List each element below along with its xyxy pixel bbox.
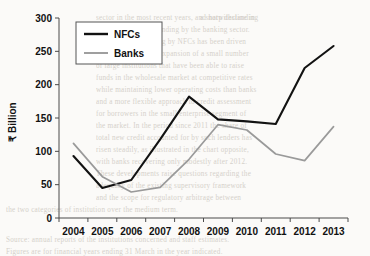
x-tick-label: 2011 [265,226,287,237]
y-tick-label: 50 [41,179,53,190]
x-axis-tick-labels: 2004200520062007200820092010201120122013 [62,226,345,237]
y-axis-ticks [55,18,59,218]
y-tick-label: 300 [35,13,52,24]
y-axis-tick-labels: 050100150200250300 [35,13,52,224]
series-line-banks [73,125,333,192]
x-tick-label: 2009 [207,226,230,237]
legend-label-nfcs: NFCs [114,29,141,40]
series-line-nfcs [73,46,333,188]
chart-legend: NFCsBanks [76,22,162,64]
y-tick-label: 0 [46,213,52,224]
x-tick-label: 2013 [322,226,345,237]
series-lines [73,46,333,192]
legend-label-banks: Banks [114,48,144,59]
x-tick-label: 2006 [120,226,143,237]
x-tick-label: 2010 [236,226,259,237]
y-tick-label: 150 [35,113,52,124]
y-axis-title: ₹ Billion [7,102,18,141]
x-tick-label: 2012 [294,226,317,237]
y-tick-label: 250 [35,46,52,57]
y-tick-label: 100 [35,146,52,157]
x-tick-label: 2008 [178,226,201,237]
x-tick-label: 2004 [62,226,85,237]
y-tick-label: 200 [35,79,52,90]
x-axis-ticks [59,218,348,222]
x-tick-label: 2007 [149,226,172,237]
x-tick-label: 2005 [91,226,114,237]
